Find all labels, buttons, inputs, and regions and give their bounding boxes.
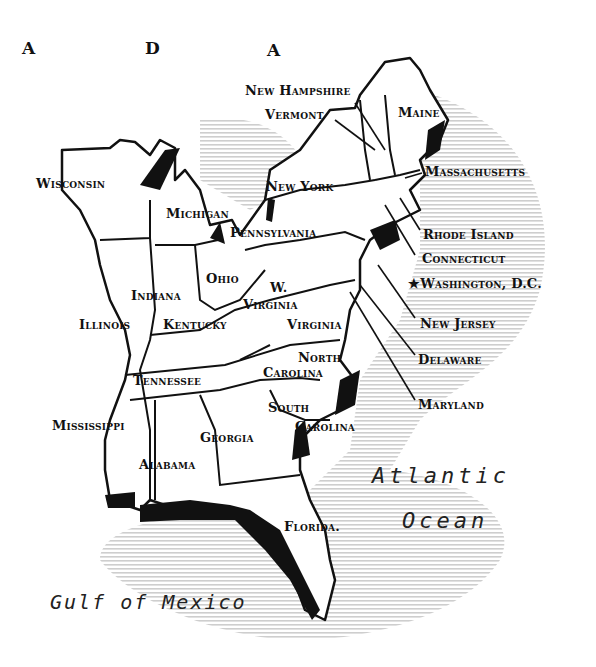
label-west-virginia-line2: Virginia: [243, 298, 298, 311]
capital-label: ★Washington, D.C.: [408, 277, 542, 290]
label-pennsylvania: Pennsylvania: [230, 226, 316, 239]
label-new-york: New York: [266, 180, 333, 193]
label-maryland: Maryland: [418, 398, 484, 411]
label-wisconsin: Wisconsin: [36, 177, 105, 190]
label-new-hampshire: New Hampshire: [245, 84, 351, 97]
label-west-virginia-line1: W.: [270, 281, 288, 294]
label-michigan: Michigan: [166, 207, 229, 220]
label-florida: Florida.: [284, 520, 340, 533]
label-illinois: Illinois: [79, 318, 130, 331]
label-atlantic: Atlantic: [372, 463, 510, 488]
label-gulf-of-mexico: Gulf of Mexico: [50, 590, 247, 614]
label-north-carolina-line2: Carolina: [263, 366, 323, 379]
label-ocean: Ocean: [402, 508, 488, 533]
label-delaware: Delaware: [418, 353, 481, 366]
region-letter-a1: A: [22, 40, 35, 57]
label-south-carolina-line2: Carolina: [295, 420, 355, 433]
label-vermont: Vermont: [265, 108, 324, 121]
label-rhode-island: Rhode Island: [423, 228, 514, 241]
label-georgia: Georgia: [200, 431, 254, 444]
star-icon: ★: [408, 276, 420, 291]
label-tennessee: Tennessee: [133, 374, 201, 387]
label-virginia: Virginia: [287, 318, 342, 331]
label-kentucky: Kentucky: [163, 318, 227, 331]
label-north-carolina-line1: North: [298, 351, 341, 364]
label-maine: Maine: [398, 106, 440, 119]
label-indiana: Indiana: [131, 289, 181, 302]
label-south-carolina-line1: South: [268, 401, 309, 414]
capital-name: Washington, D.C.: [420, 276, 542, 291]
label-connecticut: Connecticut: [422, 252, 505, 265]
eastern-us-map: [0, 0, 596, 667]
label-ohio: Ohio: [206, 272, 239, 285]
label-massachusetts: Massachusetts: [425, 165, 525, 178]
label-new-jersey: New Jersey: [420, 317, 496, 330]
label-alabama: Alabama: [139, 458, 195, 471]
region-letter-a2: A: [267, 42, 280, 59]
label-mississippi: Mississippi: [52, 419, 125, 432]
region-letter-d: D: [145, 40, 160, 57]
